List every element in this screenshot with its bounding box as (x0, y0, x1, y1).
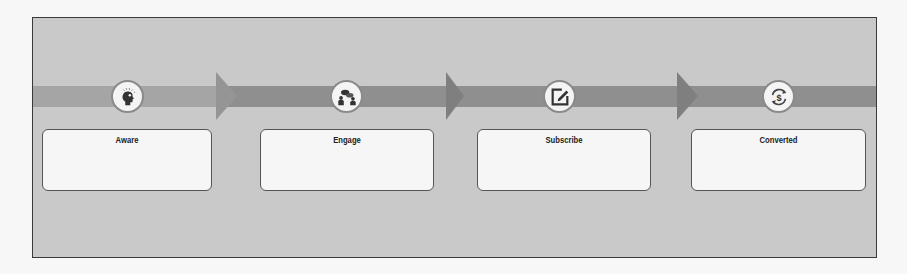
arrow-right-icon (677, 72, 698, 120)
stage-label: Engage (274, 135, 420, 145)
arrow-right-icon (216, 72, 237, 120)
stage-label: Aware (56, 135, 199, 145)
edit-form-icon (549, 86, 571, 108)
svg-text:$: $ (776, 92, 781, 102)
arrow-right-icon (446, 72, 464, 120)
stage-icon-aware (111, 80, 144, 113)
stage-box-subscribe: Subscribe (477, 129, 651, 191)
stage-box-engage: Engage (260, 129, 434, 191)
dollar-cycle-icon: $ (768, 86, 790, 108)
stage-box-aware: Aware (42, 129, 212, 191)
stage-label: Converted (705, 135, 852, 145)
stage-icon-subscribe (543, 80, 576, 113)
stage-label: Subscribe (491, 135, 637, 145)
head-bulb-icon (117, 86, 139, 108)
stage-icon-engage (330, 80, 363, 113)
stage-box-converted: Converted (691, 129, 866, 191)
stage-icon-converted: $ (762, 80, 795, 113)
conversation-people-icon (336, 86, 358, 108)
